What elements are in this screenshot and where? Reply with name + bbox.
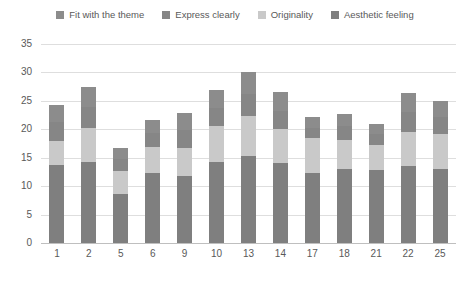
y-axis-tick-label: 0 xyxy=(0,238,32,248)
bar-segment[interactable] xyxy=(369,145,384,169)
bar-segment[interactable] xyxy=(401,93,416,112)
x-axis-tick-label: 13 xyxy=(233,248,265,260)
y-axis-tick-label: 25 xyxy=(0,96,32,106)
bar-segment[interactable] xyxy=(241,72,256,94)
bar-segment[interactable] xyxy=(209,162,224,243)
plot-area xyxy=(41,44,456,243)
bar-segment[interactable] xyxy=(433,101,448,117)
chart-legend: Fit with the themeExpress clearlyOrigina… xyxy=(0,10,470,20)
bar-column[interactable] xyxy=(305,44,320,243)
bar-column[interactable] xyxy=(177,44,192,243)
x-axis-tick-label: 14 xyxy=(264,248,296,260)
bar-segment[interactable] xyxy=(273,111,288,130)
bar-segment[interactable] xyxy=(433,169,448,243)
bar-segment[interactable] xyxy=(177,148,192,176)
x-axis-tick-label: 25 xyxy=(424,248,456,260)
bar-segment[interactable] xyxy=(145,147,160,173)
bar-column[interactable] xyxy=(401,44,416,243)
bar-segment[interactable] xyxy=(113,159,128,171)
bar-column[interactable] xyxy=(273,44,288,243)
bar-segment[interactable] xyxy=(337,114,352,127)
bar-column[interactable] xyxy=(81,44,96,243)
bar-segment[interactable] xyxy=(81,87,96,107)
bar-column[interactable] xyxy=(369,44,384,243)
bar-segment[interactable] xyxy=(401,132,416,167)
bar-segment[interactable] xyxy=(241,94,256,116)
bar-segment[interactable] xyxy=(337,169,352,243)
legend-item-label: Express clearly xyxy=(175,10,239,20)
bar-segment[interactable] xyxy=(81,128,96,162)
bar-segment[interactable] xyxy=(209,126,224,162)
bar-segment[interactable] xyxy=(273,163,288,243)
stacked-bar-chart: Fit with the themeExpress clearlyOrigina… xyxy=(0,0,470,281)
bar-segment[interactable] xyxy=(401,112,416,131)
bar-segment[interactable] xyxy=(241,116,256,156)
bar-column[interactable] xyxy=(337,44,352,243)
bar-column[interactable] xyxy=(49,44,64,243)
bar-segment[interactable] xyxy=(273,92,288,110)
legend-item-label: Fit with the theme xyxy=(69,10,144,20)
x-axis-tick-label: 10 xyxy=(201,248,233,260)
x-axis-tick-label: 6 xyxy=(137,248,169,260)
bar-segment[interactable] xyxy=(113,194,128,243)
legend-item[interactable]: Fit with the theme xyxy=(56,10,144,20)
legend-square-icon xyxy=(331,11,339,19)
legend-item-label: Originality xyxy=(271,10,313,20)
bar-segment[interactable] xyxy=(81,107,96,128)
legend-item[interactable]: Aesthetic feeling xyxy=(331,10,414,20)
bar-segment[interactable] xyxy=(113,148,128,159)
legend-square-icon xyxy=(258,11,266,19)
bar-segment[interactable] xyxy=(305,128,320,139)
bar-segment[interactable] xyxy=(49,165,64,243)
x-axis-tick-label: 18 xyxy=(328,248,360,260)
x-axis-tick-label: 9 xyxy=(169,248,201,260)
y-axis-tick-label: 15 xyxy=(0,153,32,163)
bar-segment[interactable] xyxy=(177,113,192,130)
bar-column[interactable] xyxy=(241,44,256,243)
bar-segment[interactable] xyxy=(369,124,384,134)
bar-segment[interactable] xyxy=(81,162,96,243)
bar-segment[interactable] xyxy=(305,117,320,128)
y-axis-tick-label: 10 xyxy=(0,181,32,191)
x-axis-tick-label: 21 xyxy=(360,248,392,260)
bar-segment[interactable] xyxy=(337,140,352,170)
bar-segment[interactable] xyxy=(49,105,64,123)
bar-segment[interactable] xyxy=(49,141,64,165)
y-axis-tick-label: 5 xyxy=(0,210,32,220)
legend-item[interactable]: Originality xyxy=(258,10,313,20)
bar-segment[interactable] xyxy=(145,120,160,133)
bar-segment[interactable] xyxy=(177,130,192,147)
bar-segment[interactable] xyxy=(49,122,64,140)
x-axis-tick-label: 22 xyxy=(392,248,424,260)
bar-segment[interactable] xyxy=(241,156,256,243)
x-axis-tick-label: 5 xyxy=(105,248,137,260)
x-axis-tick-label: 2 xyxy=(73,248,105,260)
bar-column[interactable] xyxy=(145,44,160,243)
bar-segment[interactable] xyxy=(145,133,160,147)
x-axis-line xyxy=(41,243,456,244)
bar-segment[interactable] xyxy=(305,173,320,244)
bar-segment[interactable] xyxy=(273,129,288,163)
y-axis-tick-label: 30 xyxy=(0,67,32,77)
bar-segment[interactable] xyxy=(209,90,224,108)
bar-segment[interactable] xyxy=(337,126,352,139)
bar-segment[interactable] xyxy=(305,138,320,172)
bar-column[interactable] xyxy=(113,44,128,243)
bar-segment[interactable] xyxy=(113,171,128,194)
x-axis-tick-label: 17 xyxy=(296,248,328,260)
bar-segment[interactable] xyxy=(433,134,448,168)
bar-segment[interactable] xyxy=(401,166,416,243)
bar-segment[interactable] xyxy=(369,170,384,243)
bar-segment[interactable] xyxy=(145,173,160,243)
bar-segment[interactable] xyxy=(369,134,384,145)
y-axis-labels: 05101520253035 xyxy=(0,0,36,281)
legend-item[interactable]: Express clearly xyxy=(162,10,239,20)
bar-segment[interactable] xyxy=(177,176,192,243)
bar-column[interactable] xyxy=(209,44,224,243)
x-axis-labels: 125691013141718212225 xyxy=(41,248,456,268)
x-axis-tick-label: 1 xyxy=(41,248,73,260)
bar-segment[interactable] xyxy=(209,108,224,126)
bar-column[interactable] xyxy=(433,44,448,243)
bar-segment[interactable] xyxy=(433,117,448,134)
legend-square-icon xyxy=(162,11,170,19)
